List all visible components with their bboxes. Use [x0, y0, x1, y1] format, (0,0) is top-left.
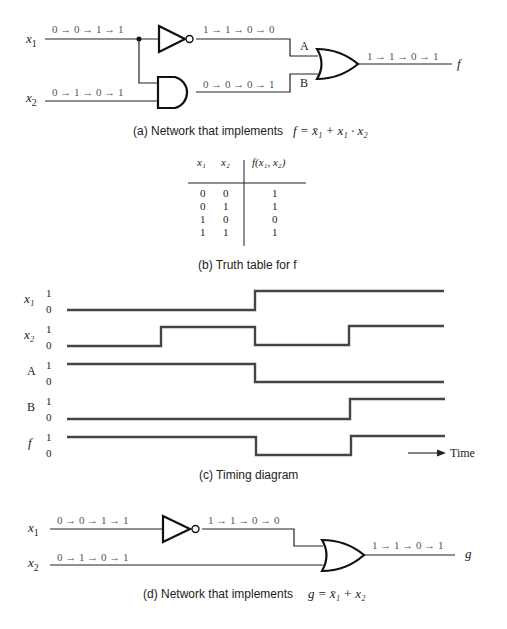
- caption-a-formula: f = x̄₁ + x₁ · x₂: [293, 123, 368, 138]
- svg-text:0: 0: [223, 187, 229, 199]
- svg-text:0: 0: [200, 200, 206, 212]
- table-row: 1 0 0: [200, 213, 278, 225]
- svg-text:0: 0: [200, 187, 206, 199]
- waveform-x2: [67, 326, 444, 346]
- timing-label-f: f: [28, 435, 34, 450]
- not-output-sequence: 1 → 1 → 0 → 0: [203, 23, 275, 35]
- timing-label-x2: x₂: [23, 327, 35, 342]
- not-output-sequence-d: 1 → 1 → 0 → 0: [208, 514, 280, 526]
- x1-sequence-d: 0 → 0 → 1 → 1: [57, 514, 129, 526]
- not-gate-d: [163, 516, 190, 542]
- not-gate-a: [159, 26, 185, 52]
- input-x1-label: x1: [25, 31, 37, 49]
- caption-d-prefix: (d) Network that implements: [143, 587, 293, 601]
- timing-label-b: B: [27, 400, 35, 414]
- timing-label-x1: x₁: [23, 291, 34, 306]
- table-row: 1 1 1: [200, 226, 278, 238]
- svg-text:1: 1: [223, 200, 229, 212]
- waveform-x1: [67, 291, 444, 310]
- time-arrow-icon: [437, 450, 446, 457]
- svg-text:0: 0: [46, 303, 52, 315]
- svg-text:1: 1: [200, 226, 206, 238]
- caption-b: (b) Truth table for f: [198, 258, 297, 272]
- svg-text:1: 1: [46, 287, 52, 299]
- and-output-sequence: 0 → 0 → 0 → 1: [203, 78, 275, 90]
- svg-text:1: 1: [46, 395, 52, 407]
- or-output-sequence-d: 1 → 1 → 0 → 1: [372, 539, 444, 551]
- input-x2-label: x2: [25, 90, 37, 108]
- timing-diagram: x₁ 1 0 x₂ 1 0 A 1 0 B 1 0 f 1 0 Time (c)…: [23, 287, 475, 482]
- svg-text:1: 1: [272, 200, 278, 212]
- timing-label-a: A: [27, 364, 36, 378]
- svg-text:1: 1: [223, 226, 229, 238]
- table-row: 0 0 1: [200, 187, 278, 199]
- input-x2-label-d: x2: [27, 555, 39, 573]
- node-b-label: B: [300, 76, 308, 90]
- not-to-or-wire: [202, 529, 323, 546]
- waveform-f: [67, 436, 445, 455]
- svg-text:1: 1: [200, 213, 206, 225]
- network-d: x1 x2 0 → 0 → 1 → 1 0 → 1 → 0 → 1 1 → 1 …: [27, 514, 472, 601]
- waveform-a: [67, 364, 444, 382]
- input-x1-label-d: x1: [27, 520, 39, 538]
- network-a: x1 x2 0 → 0 → 1 → 1 0 → 1 → 0 → 1 1 → 1 …: [25, 23, 463, 138]
- svg-text:1: 1: [272, 187, 278, 199]
- table-row: 0 1 1: [200, 200, 278, 212]
- x2-sequence: 0 → 1 → 0 → 1: [52, 86, 124, 98]
- svg-text:0: 0: [46, 411, 52, 423]
- svg-text:0: 0: [46, 447, 52, 459]
- svg-text:0: 0: [272, 213, 278, 225]
- truth-table: x₁ x₂ f(x₁, x₂) 0 0 1 0 1 1 1 0 0 1 1 1 …: [188, 156, 306, 272]
- svg-text:1: 1: [46, 431, 52, 443]
- not-bubble-a: [186, 36, 193, 43]
- not-bubble-d: [192, 526, 199, 533]
- or-output-sequence: 1 → 1 → 0 → 1: [367, 50, 439, 62]
- x1-sequence: 0 → 0 → 1 → 1: [52, 23, 124, 35]
- and-gate: [158, 77, 187, 108]
- time-label: Time: [450, 446, 475, 460]
- table-header-x2: x₂: [220, 156, 230, 168]
- node-a-label: A: [300, 39, 309, 53]
- output-g-label: g: [465, 546, 472, 561]
- table-header-f: f(x₁, x₂): [252, 156, 286, 169]
- or-gate-d: [322, 540, 364, 571]
- x2-sequence-d: 0 → 1 → 0 → 1: [57, 551, 129, 563]
- caption-d-formula: g = x̄₁ + x₂: [308, 586, 366, 601]
- svg-text:0: 0: [46, 375, 52, 387]
- svg-text:1: 1: [46, 323, 52, 335]
- output-f-label: f: [457, 56, 463, 71]
- svg-text:1: 1: [272, 226, 278, 238]
- svg-text:0: 0: [223, 213, 229, 225]
- caption-c: (c) Timing diagram: [199, 468, 298, 482]
- caption-a-prefix: (a) Network that implements: [133, 124, 283, 138]
- svg-text:0: 0: [46, 339, 52, 351]
- svg-text:1: 1: [46, 359, 52, 371]
- x1-branch-wire: [139, 39, 158, 83]
- table-header-x1: x₁: [196, 156, 206, 168]
- waveform-b: [67, 399, 445, 419]
- logic-network-figure: x1 x2 0 → 0 → 1 → 1 0 → 1 → 0 → 1 1 → 1 …: [0, 0, 507, 629]
- or-gate-a: [317, 49, 358, 79]
